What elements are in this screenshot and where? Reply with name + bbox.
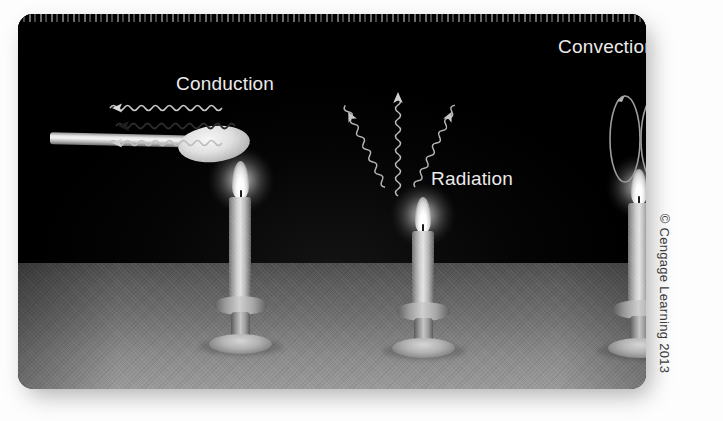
candle-holder-base <box>392 338 455 358</box>
illustration-panel: Conduction Radiation Convection <box>18 14 646 389</box>
conduction-wave-arrow-bottom <box>96 135 228 151</box>
candle-holder-base <box>209 334 272 354</box>
candle-body <box>412 231 434 307</box>
conduction-wave-arrow-top <box>96 100 226 116</box>
convection-loop-right <box>641 96 646 182</box>
table-surface <box>18 263 646 389</box>
convection-loop-left <box>610 96 640 182</box>
candle-body <box>628 203 646 305</box>
radiation-wave-arrow-left <box>334 88 394 200</box>
label-conduction: Conduction <box>176 73 274 95</box>
candle-body <box>229 197 251 301</box>
convection-loop-arrows <box>598 94 646 188</box>
candle-conduction <box>204 156 276 356</box>
candle-radiation <box>387 192 459 362</box>
figure-root: Conduction Radiation Convection © Cengag… <box>0 0 723 421</box>
conduction-wave-arrow-middle <box>102 118 238 134</box>
candle-convection <box>603 164 646 360</box>
label-radiation: Radiation <box>431 168 513 190</box>
copyright-credit: © Cengage Learning 2013 <box>658 214 673 374</box>
label-convection: Convection <box>558 36 646 58</box>
